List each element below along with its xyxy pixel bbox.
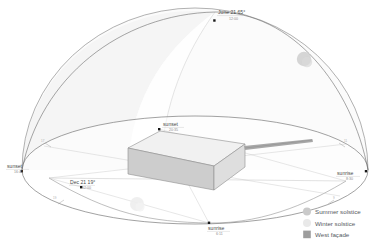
label-sunset-summer-title: sunset xyxy=(163,121,179,127)
label-december-time: 12:00 xyxy=(82,186,91,190)
marker-sunset-summer xyxy=(158,128,160,130)
label-sunset-winter-title: sunset xyxy=(7,163,23,169)
marker-june-noon xyxy=(213,19,215,21)
legend-swatch-winter-solstice xyxy=(303,219,311,227)
tick-west-upper-label: 17 xyxy=(41,139,45,143)
legend-label-west-facade: West façade xyxy=(315,231,350,238)
label-june-time: 12:00 xyxy=(229,17,238,21)
label-june-title: June 21 65° xyxy=(218,9,245,15)
sun-path-diagram: June 21 65° 12:00 sunset 20:35 sunset 16… xyxy=(0,0,390,250)
label-sunset-winter-time: 16:41 xyxy=(14,170,23,174)
marker-sunrise-summer xyxy=(208,222,210,224)
label-december-title: Dec 21 19° xyxy=(70,179,95,185)
summer-solstice-sun-glow xyxy=(302,57,312,67)
label-sunrise-winter-title: sunrise xyxy=(337,170,354,176)
tick-east-upper-label: 11 xyxy=(344,139,347,143)
marker-sunrise-winter xyxy=(365,170,367,172)
label-sunrise-summer-title: sunrise xyxy=(208,225,225,231)
label-sunrise-winter-time: 8:30 xyxy=(346,177,353,181)
legend-label-summer-solstice: Summer solstice xyxy=(315,208,361,215)
label-sunset-summer-time: 20:35 xyxy=(169,128,178,132)
tick-west-lower-label: 19 xyxy=(53,196,57,200)
winter-solstice-sun-glow xyxy=(135,202,144,211)
label-sunrise-summer-time: 6:11 xyxy=(216,232,223,236)
legend-swatch-summer-solstice xyxy=(303,208,311,216)
legend: Summer solstice Winter solstice West faç… xyxy=(303,208,361,239)
legend-label-winter-solstice: Winter solstice xyxy=(315,220,356,227)
diagram-canvas: June 21 65° 12:00 sunset 20:35 sunset 16… xyxy=(0,0,390,250)
legend-swatch-west-facade xyxy=(303,231,311,239)
